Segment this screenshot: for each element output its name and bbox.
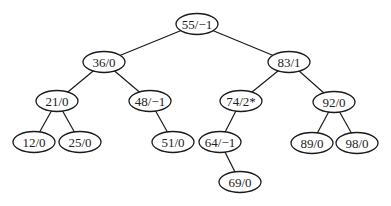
- node-label: 55/−1: [182, 17, 212, 32]
- node-label: 48/−1: [135, 94, 165, 109]
- tree-node-21: 21/0: [36, 91, 78, 112]
- node-label: 21/0: [45, 94, 68, 109]
- node-label: 12/0: [22, 135, 45, 150]
- tree-nodes: 55/−136/083/121/048/−174/2*92/012/025/05…: [13, 14, 378, 193]
- tree-node-12: 12/0: [13, 132, 55, 153]
- node-label: 98/0: [345, 136, 368, 151]
- tree-edges: [34, 24, 357, 182]
- node-label: 83/1: [277, 55, 300, 70]
- tree-node-51: 51/0: [152, 132, 194, 153]
- node-label: 74/2*: [226, 94, 256, 109]
- node-label: 25/0: [68, 135, 91, 150]
- tree-node-74: 74/2*: [220, 91, 262, 112]
- tree-node-64: 64/−1: [199, 132, 241, 153]
- node-label: 64/−1: [205, 135, 235, 150]
- tree-diagram: 55/−136/083/121/048/−174/2*92/012/025/05…: [0, 0, 391, 206]
- tree-node-83: 83/1: [268, 52, 310, 73]
- tree-node-98: 98/0: [336, 133, 378, 154]
- node-label: 36/0: [92, 55, 115, 70]
- tree-node-89: 89/0: [291, 133, 333, 154]
- node-label: 92/0: [322, 95, 345, 110]
- tree-node-48: 48/−1: [129, 91, 171, 112]
- node-label: 69/0: [228, 175, 251, 190]
- tree-node-92: 92/0: [313, 92, 355, 113]
- tree-node-36: 36/0: [83, 52, 125, 73]
- tree-node-69: 69/0: [219, 172, 261, 193]
- tree-node-55: 55/−1: [176, 14, 218, 35]
- tree-node-25: 25/0: [59, 132, 101, 153]
- node-label: 51/0: [161, 135, 184, 150]
- node-label: 89/0: [300, 136, 323, 151]
